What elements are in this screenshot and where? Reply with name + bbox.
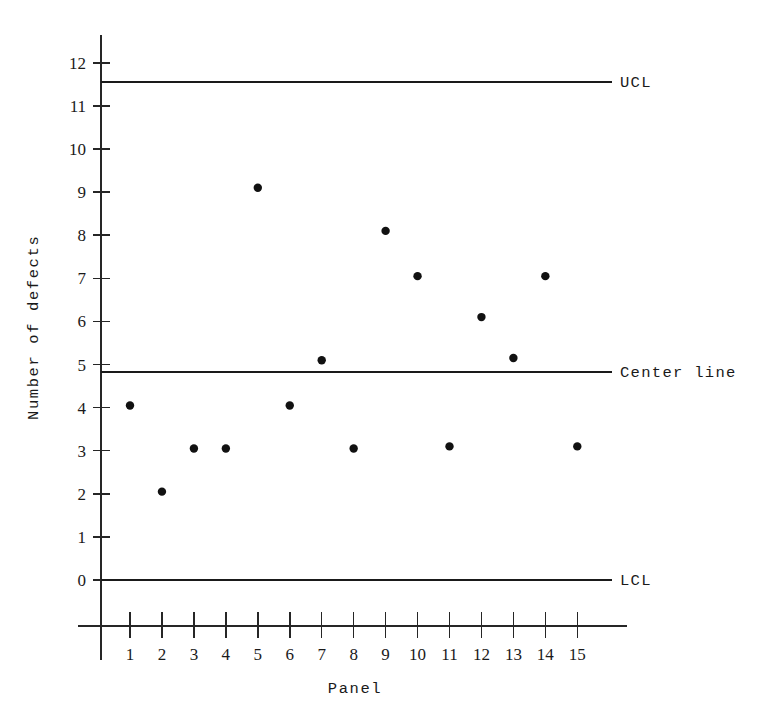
data-point bbox=[190, 444, 198, 452]
x-tick-label: 14 bbox=[537, 645, 555, 664]
data-point bbox=[126, 401, 134, 409]
x-tick-label: 12 bbox=[473, 645, 490, 664]
x-tick-label: 10 bbox=[409, 645, 426, 664]
data-point bbox=[509, 354, 517, 362]
y-tick-label: 7 bbox=[78, 269, 87, 288]
data-point bbox=[477, 313, 485, 321]
data-points bbox=[126, 184, 582, 496]
x-tick-label: 11 bbox=[441, 645, 457, 664]
y-tick-label: 12 bbox=[69, 54, 86, 73]
x-tick-label: 4 bbox=[222, 645, 231, 664]
data-point bbox=[222, 444, 230, 452]
y-tick-label: 5 bbox=[78, 356, 87, 375]
y-axis-ticks: 0123456789101112 bbox=[69, 54, 110, 590]
y-tick-label: 10 bbox=[69, 140, 86, 159]
x-tick-label: 5 bbox=[254, 645, 263, 664]
data-point bbox=[445, 442, 453, 450]
data-point bbox=[541, 272, 549, 280]
y-tick-label: 1 bbox=[78, 528, 87, 547]
x-axis-title: Panel bbox=[328, 680, 383, 698]
x-axis-ticks: 123456789101112131415 bbox=[126, 612, 586, 664]
control-chart-canvas: 0123456789101112 123456789101112131415 U… bbox=[0, 0, 779, 710]
y-tick-label: 0 bbox=[78, 571, 87, 590]
data-point bbox=[158, 487, 166, 495]
x-tick-label: 9 bbox=[381, 645, 390, 664]
data-point bbox=[349, 444, 357, 452]
y-tick-label: 6 bbox=[78, 312, 87, 331]
y-tick-label: 3 bbox=[78, 442, 87, 461]
y-tick-label: 8 bbox=[78, 226, 87, 245]
control-limit-label-center: Center line bbox=[620, 364, 737, 382]
data-point bbox=[413, 272, 421, 280]
x-tick-label: 6 bbox=[286, 645, 295, 664]
x-tick-label: 15 bbox=[569, 645, 586, 664]
data-point bbox=[381, 227, 389, 235]
control-limit-labels: UCLCenter lineLCL bbox=[620, 74, 737, 590]
control-chart: 0123456789101112 123456789101112131415 U… bbox=[0, 0, 779, 710]
data-point bbox=[573, 442, 581, 450]
x-tick-label: 3 bbox=[190, 645, 199, 664]
y-tick-label: 9 bbox=[78, 183, 87, 202]
x-tick-label: 8 bbox=[349, 645, 358, 664]
data-point bbox=[286, 401, 294, 409]
y-axis-title: Number of defects bbox=[25, 235, 43, 420]
x-tick-label: 7 bbox=[317, 645, 326, 664]
data-point bbox=[254, 184, 262, 192]
x-tick-label: 1 bbox=[126, 645, 135, 664]
y-tick-label: 2 bbox=[78, 485, 87, 504]
control-limit-lines bbox=[101, 82, 612, 580]
x-tick-label: 2 bbox=[158, 645, 167, 664]
control-limit-label-ucl: UCL bbox=[620, 74, 652, 92]
data-point bbox=[318, 356, 326, 364]
y-tick-label: 11 bbox=[70, 97, 86, 116]
chart-axes bbox=[78, 35, 627, 660]
x-tick-label: 13 bbox=[505, 645, 522, 664]
y-tick-label: 4 bbox=[78, 399, 87, 418]
control-limit-label-lcl: LCL bbox=[620, 572, 652, 590]
